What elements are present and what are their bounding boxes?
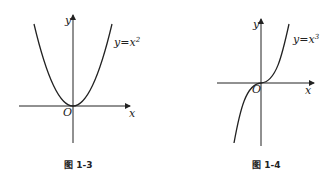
figures-canvas: y x O y=x2 图 1-3 y x O y=x3 图 1-4	[0, 0, 322, 182]
y-axis-label: y	[64, 14, 72, 27]
origin-label: O	[63, 106, 72, 119]
figure-cubic: y x O y=x3 图 1-4	[217, 18, 320, 170]
curve-label: y=x2	[113, 36, 141, 49]
y-axis-label: y	[252, 18, 260, 31]
curve-label: y=x3	[292, 33, 320, 46]
figure-caption: 图 1-4	[252, 160, 280, 170]
origin-label: O	[252, 83, 261, 96]
figure-parabola: y x O y=x2 图 1-3	[19, 14, 141, 170]
x-axis-label: x	[305, 84, 312, 97]
x-axis-label: x	[129, 107, 136, 120]
figure-caption: 图 1-3	[64, 160, 92, 170]
